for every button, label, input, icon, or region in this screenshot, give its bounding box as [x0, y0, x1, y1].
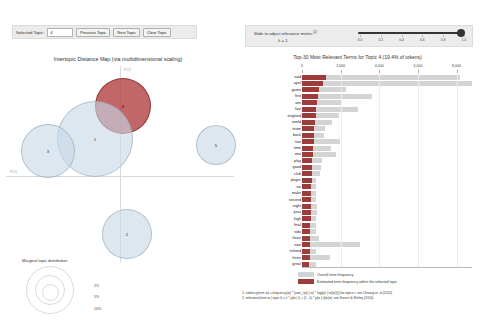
- bar-topic-frequency: [302, 197, 311, 202]
- bar-topic-frequency: [302, 184, 311, 189]
- term-row[interactable]: three: [236, 255, 479, 261]
- term-row[interactable]: two: [236, 139, 479, 145]
- term-label: ireland: [290, 248, 301, 254]
- slider-tick-group: 0.00.20.40.60.81.0: [358, 35, 466, 45]
- bar-topic-frequency: [302, 262, 309, 267]
- topic-bubble-3[interactable]: 3: [21, 124, 75, 178]
- term-row[interactable]: second: [236, 197, 479, 203]
- slider-tick-mark-4: [443, 35, 444, 37]
- slider-tick-mark-3: [422, 35, 423, 37]
- bar-overall-frequency: [302, 242, 360, 247]
- relevance-slider-label: Slide to adjust relevance metric:(2): [254, 30, 317, 36]
- term-row[interactable]: first: [236, 93, 479, 99]
- relevance-slider[interactable]: 0.00.20.40.60.81.0: [358, 29, 466, 45]
- term-row[interactable]: ireland: [236, 248, 479, 254]
- topic-bubble-2[interactable]: 2: [102, 209, 152, 259]
- term-row[interactable]: team: [236, 126, 479, 132]
- legend-row-overall: Overall term frequency: [298, 271, 478, 278]
- next-topic-button[interactable]: Next Topic: [113, 28, 140, 37]
- legend-label-overall: Overall term frequency: [317, 273, 353, 277]
- marginal-tick-5: 5%: [94, 295, 99, 299]
- bar-topic-frequency: [302, 178, 312, 183]
- term-row[interactable]: night: [236, 203, 479, 209]
- term-label: side: [294, 229, 301, 235]
- barchart-baseline: [302, 267, 472, 268]
- left-panel: Selected Topic: Previous Topic Next Topi…: [0, 0, 236, 322]
- term-row[interactable]: six: [236, 184, 479, 190]
- bar-topic-frequency: [302, 81, 323, 86]
- term-row[interactable]: world: [236, 119, 479, 125]
- x-tick-label-0: 0: [301, 64, 303, 68]
- term-row[interactable]: club: [236, 171, 479, 177]
- topic-bubble-5[interactable]: 5: [196, 125, 236, 165]
- bar-overall-frequency: [302, 81, 472, 86]
- term-row[interactable]: play: [236, 158, 479, 164]
- axis-label-pc1: PC1: [10, 170, 17, 174]
- term-row[interactable]: last: [236, 106, 479, 112]
- slider-tick-mark-2: [402, 35, 403, 37]
- term-row[interactable]: three: [236, 235, 479, 241]
- term-label: high: [294, 216, 301, 222]
- clear-topic-button[interactable]: Clear Topic: [143, 28, 171, 37]
- term-label: game: [292, 87, 302, 93]
- term-row[interactable]: april: [236, 80, 479, 86]
- slider-tick-label-0: 0.0: [358, 38, 363, 42]
- bar-topic-frequency: [302, 75, 326, 80]
- pyldavis-app: Selected Topic: Previous Topic Next Topi…: [0, 0, 479, 322]
- gridline-3: [418, 74, 419, 267]
- term-row[interactable]: year: [236, 209, 479, 215]
- bar-topic-frequency: [302, 146, 313, 151]
- term-row[interactable]: win: [236, 100, 479, 106]
- bar-topic-frequency: [302, 120, 315, 125]
- term-row[interactable]: high: [236, 216, 479, 222]
- term-row[interactable]: good: [236, 164, 479, 170]
- previous-topic-button[interactable]: Previous Topic: [76, 28, 110, 37]
- gridline-4: [457, 74, 458, 267]
- intertopic-distance-map[interactable]: PC2 PC1 41352: [6, 66, 234, 262]
- bar-topic-frequency: [302, 216, 311, 221]
- term-row[interactable]: one: [236, 151, 479, 157]
- x-tick-label-1: 2,000: [336, 64, 345, 68]
- bar-topic-frequency: [302, 236, 310, 241]
- term-label: player: [291, 177, 301, 183]
- term-row[interactable]: side: [236, 229, 479, 235]
- bar-topic-frequency: [302, 255, 310, 260]
- selected-topic-input[interactable]: [47, 28, 73, 37]
- bar-topic-frequency: [302, 229, 310, 234]
- term-row[interactable]: back: [236, 132, 479, 138]
- bar-topic-frequency: [302, 94, 318, 99]
- term-row[interactable]: player: [236, 177, 479, 183]
- relevance-slider-box: Slide to adjust relevance metric:(2) λ =…: [245, 25, 473, 47]
- bar-topic-frequency: [302, 165, 312, 170]
- footnote-2: 2. relevance(term w | topic t) = λ * p(w…: [242, 296, 479, 301]
- term-label: year: [294, 209, 301, 215]
- topic-control-bar: Selected Topic: Previous Topic Next Topi…: [12, 25, 197, 39]
- term-row[interactable]: final: [236, 222, 479, 228]
- legend-label-topic: Estimated term frequency within the sele…: [317, 280, 397, 284]
- slider-track[interactable]: [358, 32, 462, 34]
- term-row[interactable]: game: [236, 87, 479, 93]
- bar-topic-frequency: [302, 249, 310, 254]
- bar-topic-frequency: [302, 133, 314, 138]
- bar-topic-frequency: [302, 210, 311, 215]
- slider-tick-mark-0: [360, 35, 361, 37]
- term-row[interactable]: make: [236, 190, 479, 196]
- term-label: england: [287, 113, 301, 119]
- bar-topic-frequency: [302, 100, 317, 105]
- x-tick-0: [302, 70, 303, 73]
- term-row[interactable]: now: [236, 242, 479, 248]
- term-label: make: [292, 190, 301, 196]
- term-row[interactable]: time: [236, 145, 479, 151]
- slider-tick-label-4: 0.8: [441, 38, 446, 42]
- term-label: six: [296, 184, 301, 190]
- barchart-bars[interactable]: saidaprilgamefirstwinlastenglandworldtea…: [236, 74, 479, 268]
- term-row[interactable]: england: [236, 113, 479, 119]
- term-row[interactable]: said: [236, 74, 479, 80]
- legend-swatch-overall: [298, 272, 314, 277]
- bar-topic-frequency: [302, 171, 312, 176]
- slider-tick-label-3: 0.6: [420, 38, 425, 42]
- bar-topic-frequency: [302, 242, 310, 247]
- relevance-slider-text: Slide to adjust relevance metric:: [254, 31, 313, 36]
- bar-topic-frequency: [302, 113, 316, 118]
- term-label: one: [295, 151, 301, 157]
